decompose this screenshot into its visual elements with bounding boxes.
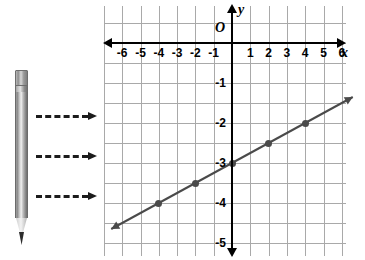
x-tick-label: 2	[261, 47, 277, 59]
data-point	[265, 140, 272, 147]
dashed-arrow-2-shaft	[36, 155, 88, 158]
x-tick-label: -3	[169, 47, 185, 59]
y-tick-label: -3	[208, 157, 226, 169]
y-tick-label: -2	[208, 117, 226, 129]
x-tick-label: -4	[151, 47, 167, 59]
x-tick-label: -6	[114, 47, 130, 59]
dashed-arrow-1-shaft	[36, 115, 88, 118]
dashed-arrow-1	[36, 112, 97, 121]
dashed-arrow-2	[36, 152, 97, 161]
figure-canvas: -6-5-4-3-2-1123456-1-2-3-4-5xyO	[0, 0, 365, 260]
x-tick-label: -5	[133, 47, 149, 59]
y-axis-arrow-down	[227, 248, 237, 257]
pencil-graphite-tip	[19, 232, 24, 245]
y-axis-arrow-up	[227, 4, 237, 13]
data-point	[155, 200, 162, 207]
dashed-arrow-2-head	[88, 152, 97, 160]
x-tick-label: -1	[206, 47, 222, 59]
y-tick-label: -1	[208, 77, 226, 89]
coordinate-plane: -6-5-4-3-2-1123456-1-2-3-4-5xyO	[104, 6, 346, 256]
pencil-body	[15, 92, 28, 218]
dashed-arrow-3	[36, 192, 97, 201]
x-axis-arrow-left	[103, 38, 112, 48]
origin-label: O	[215, 21, 225, 35]
x-tick-label: 1	[242, 47, 258, 59]
y-tick-label: -4	[208, 197, 226, 209]
x-tick-label: 3	[279, 47, 295, 59]
data-point	[302, 120, 309, 127]
data-point	[192, 180, 199, 187]
x-tick-label: 4	[297, 47, 313, 59]
dashed-arrow-3-shaft	[36, 195, 88, 198]
x-tick-label: -2	[187, 47, 203, 59]
y-axis-label: y	[238, 3, 244, 17]
x-tick-label: 5	[316, 47, 332, 59]
dashed-arrow-3-head	[88, 192, 97, 200]
dashed-arrow-1-head	[88, 112, 97, 120]
x-axis	[110, 42, 338, 44]
pencil-icon	[14, 70, 30, 245]
y-axis	[231, 12, 233, 248]
pencil-eraser	[15, 70, 28, 86]
y-tick-label: -5	[208, 237, 226, 249]
x-axis-label: x	[341, 46, 348, 60]
